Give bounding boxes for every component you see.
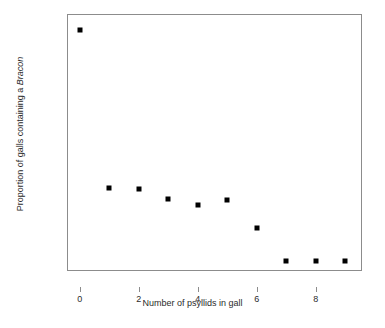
y-axis-label: Proportion of galls containing a Bracon bbox=[15, 4, 25, 264]
x-tick-mark bbox=[139, 287, 140, 292]
data-point bbox=[343, 258, 348, 263]
x-tick-mark bbox=[257, 287, 258, 292]
data-point bbox=[195, 203, 200, 208]
data-point bbox=[284, 258, 289, 263]
data-point bbox=[77, 28, 82, 33]
y-axis-label-prefix: Proportion of galls containing a bbox=[15, 85, 25, 211]
data-points-layer bbox=[68, 15, 361, 270]
data-point bbox=[136, 186, 141, 191]
plot-panel: 0.00.20.40.60.8 02468 bbox=[67, 14, 362, 271]
x-tick-mark bbox=[80, 287, 81, 292]
data-point bbox=[313, 258, 318, 263]
y-axis-label-taxon: Bracon bbox=[15, 57, 25, 86]
scatter-plot-figure: 0.00.20.40.60.8 02468 Number of psyllids… bbox=[0, 0, 385, 328]
x-tick-mark bbox=[198, 287, 199, 292]
x-axis-label: Number of psyllids in gall bbox=[0, 298, 385, 308]
data-point bbox=[254, 225, 259, 230]
data-point bbox=[166, 196, 171, 201]
x-tick-mark bbox=[316, 287, 317, 292]
data-point bbox=[225, 198, 230, 203]
data-point bbox=[107, 185, 112, 190]
